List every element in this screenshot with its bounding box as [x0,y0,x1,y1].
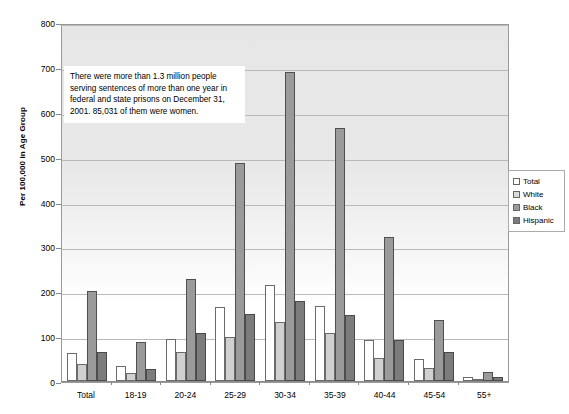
bar[interactable] [483,372,493,381]
annotation-textbox: There were more than 1.3 million people … [64,66,245,123]
bar[interactable] [424,368,434,381]
bar[interactable] [126,373,136,381]
bar[interactable] [186,279,196,381]
bar[interactable] [394,340,404,381]
bar[interactable] [275,322,285,381]
bar-group [310,25,360,381]
y-tick-label: 800 [11,19,55,29]
bar[interactable] [444,352,454,381]
x-tick-label: 35-39 [310,390,360,400]
bar[interactable] [414,359,424,381]
legend-swatch-icon [513,204,520,211]
bar-group [359,25,409,381]
y-tick-label: 200 [11,288,55,298]
bar[interactable] [116,366,126,381]
bar[interactable] [245,314,255,381]
y-tick-label: 400 [11,199,55,209]
bar[interactable] [374,358,384,381]
bar[interactable] [285,72,295,381]
bar[interactable] [215,307,225,381]
bar[interactable] [146,369,156,381]
y-tick-mark [56,383,61,384]
bar[interactable] [67,353,77,381]
bar[interactable] [136,342,146,381]
y-tick-label: 0 [11,378,55,388]
legend-item[interactable]: White [513,188,561,201]
bar-group [459,25,509,381]
bar[interactable] [166,339,176,381]
bar-group [409,25,459,381]
bar[interactable] [265,285,275,381]
x-axis-tick-labels: Total18-1920-2425-2930-3435-3940-4445-54… [61,390,509,400]
y-tick-label: 300 [11,243,55,253]
bar[interactable] [335,128,345,381]
bar[interactable] [364,340,374,381]
legend-label: Hispanic [523,216,554,225]
legend-swatch-icon [513,191,520,198]
x-axis-line [62,381,508,382]
bar[interactable] [235,163,245,381]
bar[interactable] [434,320,444,381]
bar[interactable] [384,237,394,381]
x-tick-label: Total [61,390,111,400]
bar[interactable] [225,337,235,381]
bar-group [260,25,310,381]
x-tick-label: 30-34 [260,390,310,400]
legend-label: White [523,190,543,199]
x-tick-label: 20-24 [161,390,211,400]
x-tick-label: 45-54 [409,390,459,400]
legend-item[interactable]: Black [513,201,561,214]
bar[interactable] [87,291,97,381]
legend-swatch-icon [513,178,520,185]
x-tick-label: 40-44 [360,390,410,400]
y-tick-label: 500 [11,154,55,164]
legend-item[interactable]: Total [513,175,561,188]
bar[interactable] [77,364,87,381]
y-tick-label: 600 [11,109,55,119]
x-tick-label: 25-29 [210,390,260,400]
y-tick-label: 700 [11,64,55,74]
legend-item[interactable]: Hispanic [513,214,561,227]
legend-label: Black [523,203,543,212]
bar[interactable] [315,306,325,381]
bar[interactable] [325,333,335,381]
bar[interactable] [295,301,305,381]
y-tick-label: 100 [11,333,55,343]
legend-swatch-icon [513,217,520,224]
legend-label: Total [523,177,540,186]
x-tick-label: 55+ [459,390,509,400]
legend: TotalWhiteBlackHispanic [508,170,565,232]
x-tick-label: 18-19 [111,390,161,400]
bar[interactable] [345,315,355,381]
bar[interactable] [196,333,206,381]
bar[interactable] [97,352,107,381]
chart-container: Per 100,000 in Age Group 010020030040050… [0,0,569,414]
bar[interactable] [176,352,186,381]
